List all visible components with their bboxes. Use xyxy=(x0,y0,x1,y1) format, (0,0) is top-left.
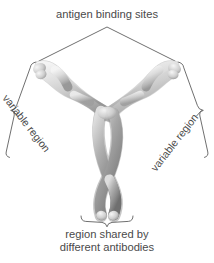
label-shared-region: region shared by different antibodies xyxy=(0,228,214,254)
label-shared-region-line-1: region shared by xyxy=(0,228,214,241)
right-arm xyxy=(109,61,183,117)
label-shared-region-line-2: different antibodies xyxy=(0,241,214,254)
top-pointer-leader xyxy=(39,27,175,61)
antibody-diagram-figure: antigen binding sites variable region va… xyxy=(0,0,214,263)
constant-region-stem xyxy=(95,107,120,222)
right-bracket-leader xyxy=(178,62,208,157)
label-antigen-binding-sites: antigen binding sites xyxy=(0,8,214,21)
hinge-region xyxy=(98,107,117,120)
left-arm xyxy=(31,61,106,116)
